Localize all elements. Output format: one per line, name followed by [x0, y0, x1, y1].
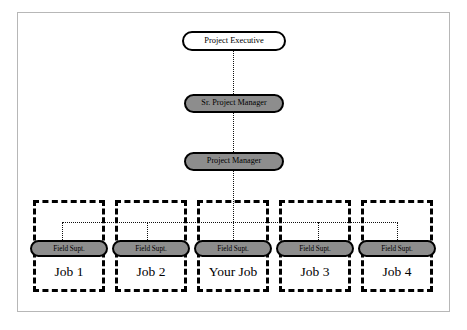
job-label-job-3: Job 3 — [279, 264, 351, 280]
field-supt-job-1[interactable]: Field Supt. — [30, 240, 108, 257]
field-supt-job-2[interactable]: Field Supt. — [112, 240, 190, 257]
field-supt-your-job-label: Field Supt. — [217, 245, 249, 253]
job-label-job-2: Job 2 — [115, 264, 187, 280]
node-sr-project-manager-label: Sr. Project Manager — [201, 99, 266, 107]
node-project-executive[interactable]: Project Executive — [182, 31, 286, 51]
field-supt-job-2-label: Field Supt. — [135, 245, 167, 253]
job-label-job-1: Job 1 — [33, 264, 105, 280]
field-supt-job-4-label: Field Supt. — [381, 245, 413, 253]
field-supt-your-job[interactable]: Field Supt. — [194, 240, 272, 257]
field-supt-job-3-label: Field Supt. — [299, 245, 331, 253]
field-supt-job-4[interactable]: Field Supt. — [358, 240, 436, 257]
node-project-executive-label: Project Executive — [204, 37, 263, 45]
node-project-manager[interactable]: Project Manager — [184, 152, 284, 171]
field-supt-job-1-label: Field Supt. — [53, 245, 85, 253]
job-label-job-4: Job 4 — [361, 264, 433, 280]
node-project-manager-label: Project Manager — [207, 157, 261, 165]
node-sr-project-manager[interactable]: Sr. Project Manager — [184, 94, 284, 113]
connector-exec-to-srpm — [233, 51, 234, 94]
connector-srpm-to-pm — [233, 113, 234, 152]
job-label-your-job: Your Job — [195, 264, 271, 280]
field-supt-job-3[interactable]: Field Supt. — [276, 240, 354, 257]
diagram-canvas: Project Executive Sr. Project Manager Pr… — [0, 0, 467, 330]
